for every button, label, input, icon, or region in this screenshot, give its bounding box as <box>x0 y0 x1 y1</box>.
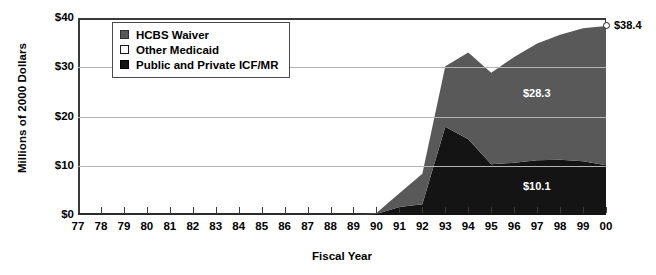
y-tick-label: $0 <box>4 209 74 220</box>
y-tick-label: $40 <box>4 12 74 23</box>
x-axis-tick-labels: 7778798081828384858687888990919293949596… <box>78 220 606 238</box>
x-tick-mark <box>422 207 423 213</box>
x-tick-mark <box>147 207 148 213</box>
x-tick-mark <box>445 207 446 213</box>
legend-swatch-white <box>120 45 129 54</box>
x-tick-mark <box>239 207 240 213</box>
legend-swatch-gray <box>120 30 129 39</box>
x-tick-mark <box>560 207 561 213</box>
x-tick-mark <box>353 207 354 213</box>
legend-item-label: HCBS Waiver <box>136 29 209 41</box>
x-tick-mark <box>583 207 584 213</box>
x-tick-mark <box>124 207 125 213</box>
chart-legend: HCBS WaiverOther MedicaidPublic and Priv… <box>112 22 290 78</box>
x-tick-mark <box>78 207 79 213</box>
x-tick-mark <box>468 207 469 213</box>
gridline <box>78 117 606 118</box>
legend-swatch-black <box>120 60 129 69</box>
x-tick-mark <box>285 207 286 213</box>
legend-item-label: Public and Private ICF/MR <box>136 59 279 71</box>
x-tick-mark <box>193 207 194 213</box>
x-tick-label: 00 <box>591 220 621 232</box>
total-endpoint-marker <box>603 22 610 29</box>
y-tick-label: $30 <box>4 61 74 72</box>
x-tick-mark <box>399 207 400 213</box>
icfmr-label: $10.1 <box>523 180 551 192</box>
y-tick-label: $20 <box>4 111 74 122</box>
x-tick-mark <box>491 207 492 213</box>
legend-item-label: Other Medicaid <box>136 44 219 56</box>
x-tick-mark <box>331 207 332 213</box>
y-axis-tick-labels: $0$10$20$30$40 <box>0 0 74 233</box>
gridline <box>78 166 606 167</box>
x-tick-mark <box>216 207 217 213</box>
area-chart: Millions of 2000 Dollars $0$10$20$30$40 … <box>0 0 656 275</box>
x-tick-mark <box>262 207 263 213</box>
legend-item: Other Medicaid <box>120 42 279 57</box>
x-tick-mark <box>308 207 309 213</box>
legend-item: Public and Private ICF/MR <box>120 57 279 72</box>
x-axis-title: Fiscal Year <box>78 250 606 262</box>
x-tick-mark <box>376 207 377 213</box>
legend-item: HCBS Waiver <box>120 27 279 42</box>
x-tick-mark <box>101 207 102 213</box>
hcbs-waiver-label: $28.3 <box>523 87 551 99</box>
total-endpoint-label: $38.4 <box>614 19 642 31</box>
y-tick-label: $10 <box>4 160 74 171</box>
x-tick-mark <box>514 207 515 213</box>
x-tick-mark <box>606 207 607 213</box>
x-tick-mark <box>170 207 171 213</box>
x-tick-mark <box>537 207 538 213</box>
